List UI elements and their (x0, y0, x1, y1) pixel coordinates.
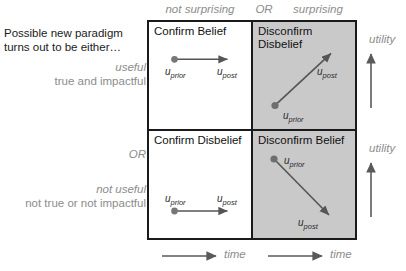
row-label-not-useful-emphasis: not useful (0, 182, 146, 196)
row-label-useful: useful true and impactful (0, 60, 146, 88)
label-u-prior-disconfirm-disbelief: uprior (283, 110, 304, 124)
axis-label-time-left: time (224, 248, 246, 260)
axis-arrow-time-right (266, 248, 330, 264)
quadrant-disconfirm-disbelief: Disconfirm Disbelief uprior upost (253, 22, 355, 131)
axis-arrow-utility-top (360, 46, 382, 110)
diagram-canvas: Possible new paradigm turns out to be ei… (0, 0, 406, 271)
page-title-line-1: Possible new paradigm (4, 26, 146, 40)
quadrant-grid: Confirm Belief uprior upost Disconfirm D… (147, 20, 357, 240)
column-header-or: OR (250, 3, 278, 15)
row-label-useful-emphasis: useful (0, 60, 146, 74)
quadrant-title-confirm-disbelief: Confirm Disbelief (154, 134, 242, 147)
axis-arrow-utility-bottom (360, 155, 382, 219)
column-header-not-surprising: not surprising (150, 3, 250, 15)
label-u-post-confirm-belief: upost (217, 66, 237, 80)
axis-label-time-right: time (330, 248, 352, 260)
label-u-prior-confirm-disbelief: uprior (165, 193, 186, 207)
page-title: Possible new paradigm turns out to be ei… (4, 26, 146, 54)
quadrant-title-disconfirm-disbelief: Disconfirm Disbelief (258, 25, 312, 51)
arrow-confirm-disbelief (149, 131, 251, 238)
label-u-prior-disconfirm-belief: uprior (284, 155, 305, 169)
axis-arrow-time-left (160, 248, 224, 264)
row-label-not-useful: not useful not true or not impactful (0, 182, 146, 210)
quadrant-title-confirm-belief: Confirm Belief (154, 25, 226, 38)
quadrant-confirm-belief: Confirm Belief uprior upost (149, 22, 253, 131)
axis-label-utility-bottom: utility (369, 142, 395, 154)
label-u-prior-confirm-belief: uprior (165, 66, 186, 80)
axis-label-utility-top: utility (369, 33, 395, 45)
label-u-post-confirm-disbelief: upost (217, 193, 237, 207)
page-title-line-2: turns out to be either… (4, 40, 146, 54)
column-header-surprising: surprising (278, 3, 358, 15)
quadrant-disconfirm-belief: Disconfirm Belief uprior upost (253, 131, 355, 238)
label-u-post-disconfirm-belief: upost (298, 217, 318, 231)
row-label-useful-detail: true and impactful (0, 74, 146, 88)
quadrant-confirm-disbelief: Confirm Disbelief uprior upost (149, 131, 253, 238)
row-label-not-useful-detail: not true or not impactful (0, 196, 146, 210)
label-u-post-disconfirm-disbelief: upost (317, 66, 337, 80)
row-divider-or: OR (0, 148, 146, 160)
quadrant-title-disconfirm-belief: Disconfirm Belief (258, 134, 344, 147)
